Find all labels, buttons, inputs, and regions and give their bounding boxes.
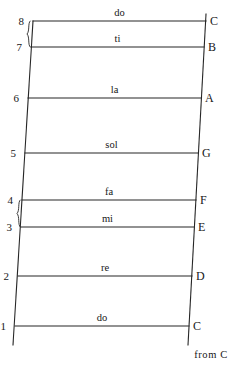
degree-label-8: 8 bbox=[19, 16, 25, 27]
degree-label-3: 3 bbox=[7, 222, 13, 233]
note-label-B-7: B bbox=[208, 41, 216, 53]
from-key-label: from C bbox=[194, 350, 228, 361]
note-label-D-2: D bbox=[196, 270, 205, 282]
left-rail bbox=[13, 21, 33, 345]
note-label-A-6: A bbox=[205, 92, 214, 104]
syllable-label-fa-4: fa bbox=[105, 187, 113, 198]
note-label-C-1: C bbox=[193, 320, 201, 332]
ladder-rungs bbox=[15, 21, 206, 326]
syllable-label-la-6: la bbox=[111, 85, 119, 96]
syllable-label-re-2: re bbox=[101, 263, 109, 274]
scale-ladder-diagram: 8Cdo7Bti6Ala5Gsol4Ffa3Emi2Dre1Cdo from C bbox=[0, 0, 241, 369]
degree-label-1: 1 bbox=[1, 321, 7, 332]
degree-label-5: 5 bbox=[11, 148, 17, 159]
half-step-brace-7-8 bbox=[27, 21, 30, 47]
ladder-rails bbox=[13, 14, 206, 345]
half-step-brace-3-4 bbox=[17, 200, 20, 227]
syllable-label-mi-3: mi bbox=[102, 214, 113, 225]
syllable-label-do-8: do bbox=[114, 8, 125, 19]
ladder-lines bbox=[0, 0, 241, 369]
note-label-C-8: C bbox=[210, 15, 218, 27]
degree-label-4: 4 bbox=[8, 195, 14, 206]
degree-label-7: 7 bbox=[17, 42, 23, 53]
syllable-label-sol-5: sol bbox=[105, 140, 117, 151]
syllable-label-ti-7: ti bbox=[115, 34, 121, 45]
degree-label-2: 2 bbox=[4, 271, 10, 282]
note-label-E-3: E bbox=[198, 221, 205, 233]
right-rail bbox=[188, 14, 206, 345]
syllable-label-do-1: do bbox=[97, 313, 108, 324]
note-label-F-4: F bbox=[200, 194, 207, 206]
degree-label-6: 6 bbox=[14, 93, 20, 104]
note-label-G-5: G bbox=[202, 147, 211, 159]
